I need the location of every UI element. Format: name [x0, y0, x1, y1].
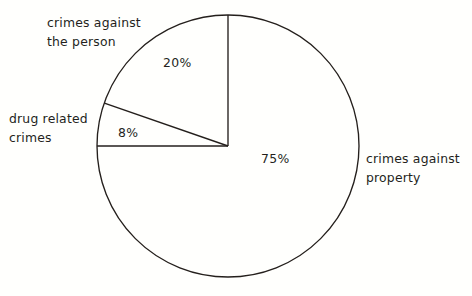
slice-label-line-2: crimes	[9, 130, 52, 145]
slice-label-crimes-against-property: crimes against property	[366, 150, 460, 188]
slice-label-line-1: drug related	[9, 111, 88, 126]
slice-label-line-2: property	[366, 170, 421, 185]
slice-label-drug-related-crimes: drug related crimes	[9, 110, 88, 148]
slice-label-crimes-against-the-person: crimes against the person	[47, 14, 141, 52]
slice-label-line-2: the person	[47, 34, 116, 49]
slice-label-line-1: crimes against	[366, 151, 460, 166]
slice-value-drug-related-crimes: 8%	[118, 125, 138, 140]
slice-value-crimes-against-property: 75%	[261, 151, 290, 166]
pie-chart-figure: crimes against the person drug related c…	[0, 0, 472, 296]
slice-value-crimes-against-the-person: 20%	[163, 55, 192, 70]
slice-label-line-1: crimes against	[47, 15, 141, 30]
